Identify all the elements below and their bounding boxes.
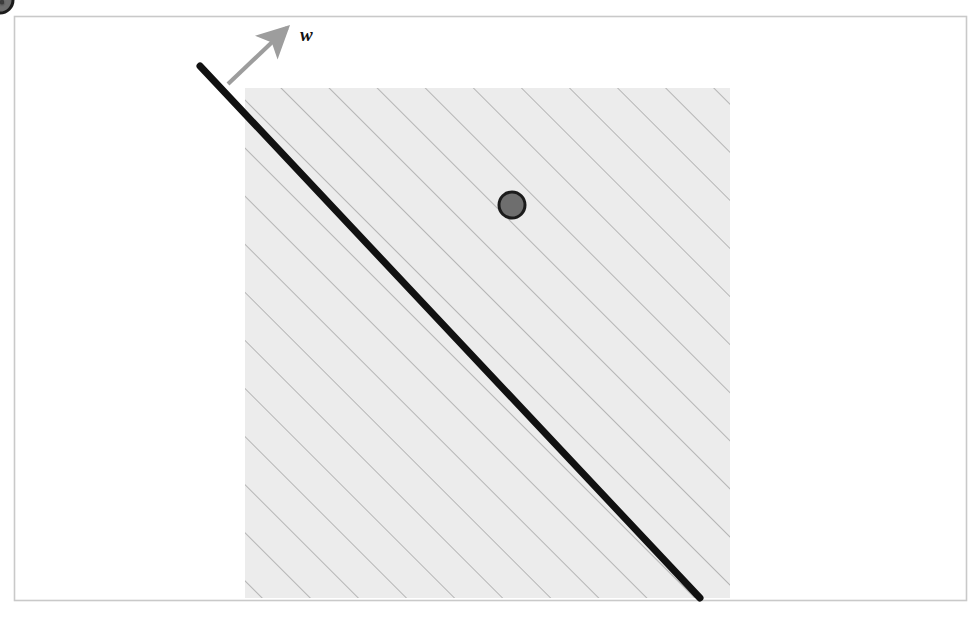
negative-side-label-box[interactable] — [0, 0, 4, 4]
normal-vector-w-label: w — [300, 24, 313, 46]
diagram-canvas: w — [0, 0, 980, 620]
normal-vector-w-arrow — [228, 28, 287, 84]
diagram-svg — [0, 0, 980, 620]
hatched-region — [245, 88, 730, 598]
query-point-q1-dot[interactable] — [499, 192, 525, 218]
